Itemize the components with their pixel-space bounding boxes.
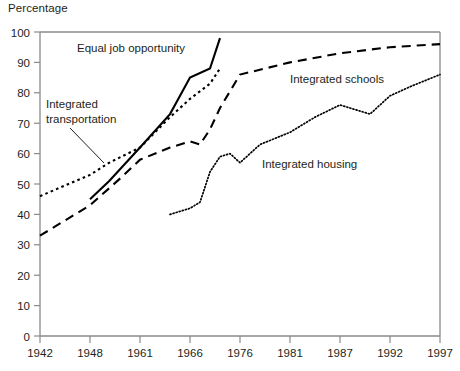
x-tick-1942: 1942 — [27, 347, 53, 359]
y-axis-tick-labels: 100 90 80 70 60 50 40 30 20 10 0 — [11, 27, 30, 343]
y-axis-ticks — [34, 32, 40, 336]
y-tick-90: 90 — [17, 57, 30, 69]
label-integrated-transportation-line2: transportation — [46, 113, 116, 125]
x-tick-1966: 1966 — [177, 347, 203, 359]
y-tick-10: 10 — [17, 300, 30, 312]
x-tick-1961: 1961 — [127, 347, 153, 359]
label-integrated-transportation-line1: Integrated — [46, 98, 98, 110]
y-tick-60: 60 — [17, 148, 30, 160]
line-chart-plot: 100 90 80 70 60 50 40 30 20 10 0 1942 — [0, 0, 460, 371]
series-annotations: Equal job opportunity Integrated transpo… — [46, 42, 384, 170]
label-integrated-housing: Integrated housing — [262, 158, 357, 170]
x-tick-1981: 1981 — [277, 347, 303, 359]
x-tick-1976: 1976 — [227, 347, 253, 359]
x-axis-tick-labels: 1942 1948 1961 1966 1976 1981 1987 1992 … — [27, 347, 453, 359]
x-tick-1997: 1997 — [427, 347, 453, 359]
series-paths — [40, 38, 440, 236]
label-integrated-schools: Integrated schools — [290, 73, 384, 85]
y-tick-70: 70 — [17, 118, 30, 130]
transportation-leader-line — [70, 128, 104, 163]
y-tick-100: 100 — [11, 27, 30, 39]
series-line-integrated-housing — [170, 75, 440, 215]
y-tick-80: 80 — [17, 87, 30, 99]
x-tick-1948: 1948 — [77, 347, 103, 359]
label-equal-job-opportunity: Equal job opportunity — [77, 42, 185, 54]
y-tick-50: 50 — [17, 179, 30, 191]
x-tick-1987: 1987 — [327, 347, 353, 359]
y-tick-20: 20 — [17, 270, 30, 282]
x-axis-ticks — [40, 336, 440, 343]
x-tick-1992: 1992 — [377, 347, 403, 359]
chart-container: Percentage 100 90 80 70 — [0, 0, 460, 371]
y-tick-40: 40 — [17, 209, 30, 221]
y-tick-30: 30 — [17, 239, 30, 251]
y-tick-0: 0 — [24, 331, 30, 343]
series-line-integrated-transportation — [40, 68, 220, 196]
